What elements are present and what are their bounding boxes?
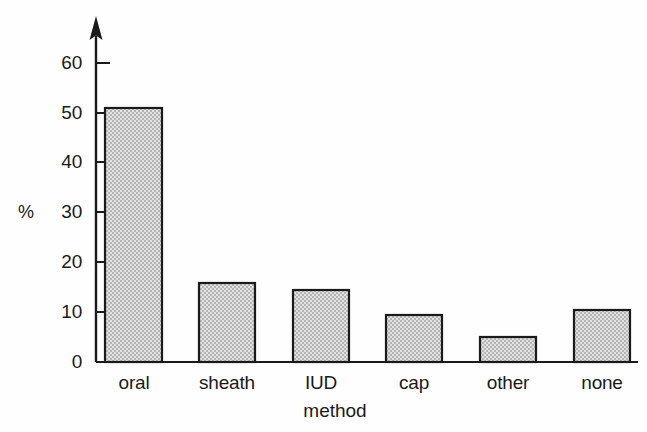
x-tick-label-none: none [556, 372, 647, 394]
y-tick-label-20: 20 [38, 251, 82, 273]
y-tick-label-10: 10 [38, 301, 82, 323]
bar-iud[interactable] [293, 290, 349, 362]
chart-canvas [0, 0, 647, 432]
y-tick-label-50: 50 [38, 102, 82, 124]
y-axis [90, 16, 103, 362]
x-tick-label-other: other [462, 372, 554, 394]
y-axis-title: % [18, 202, 34, 223]
x-tick-label-oral: oral [88, 372, 180, 394]
y-tick-label-0: 0 [38, 351, 82, 373]
y-tick-label-60: 60 [38, 52, 82, 74]
bar-chart: 60 50 40 30 20 10 0 % oral sheath IUD ca… [0, 0, 647, 432]
x-tick-label-cap: cap [368, 372, 460, 394]
chart-screenshot: 60 50 40 30 20 10 0 % oral sheath IUD ca… [0, 0, 647, 432]
x-tick-label-iud: IUD [275, 372, 367, 394]
y-tick-label-30: 30 [38, 201, 82, 223]
bar-cap[interactable] [386, 315, 442, 362]
bar-sheath[interactable] [199, 283, 255, 362]
y-tick-label-40: 40 [38, 151, 82, 173]
bar-oral[interactable] [105, 108, 162, 362]
bar-none[interactable] [574, 310, 630, 362]
bar-other[interactable] [480, 337, 536, 362]
x-axis-title: method [275, 400, 395, 422]
x-tick-label-sheath: sheath [181, 372, 273, 394]
bars-group [105, 108, 630, 362]
